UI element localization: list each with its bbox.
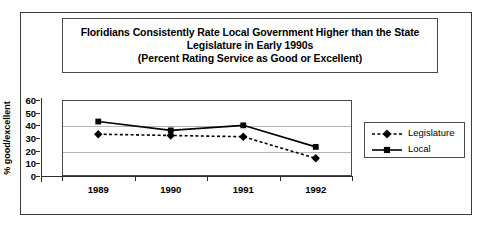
title-line-1: Floridians Consistently Rate Local Gover… bbox=[81, 26, 420, 39]
y-axis-label-text: % good/excellent bbox=[2, 101, 12, 175]
x-tick-mark bbox=[207, 176, 208, 181]
x-tick-mark bbox=[135, 176, 136, 181]
x-tick-label: 1991 bbox=[233, 184, 254, 195]
y-axis-line bbox=[41, 98, 42, 182]
y-tick-label: 40 bbox=[25, 120, 36, 131]
data-point-legislature bbox=[312, 154, 320, 162]
x-tick-label: 1992 bbox=[305, 184, 326, 195]
y-tick-label: 60 bbox=[25, 95, 36, 106]
data-point-legislature bbox=[239, 133, 247, 141]
y-tick-label: 50 bbox=[25, 107, 36, 118]
y-tick-mark bbox=[36, 163, 40, 164]
title-line-2: Legislature in Early 1990s bbox=[81, 39, 420, 52]
chart-legend: LegislatureLocal bbox=[364, 122, 465, 158]
series-layer bbox=[62, 100, 352, 176]
y-tick-mark bbox=[36, 125, 40, 126]
square-marker-icon bbox=[370, 142, 404, 154]
title-line-3: (Percent Rating Service as Good or Excel… bbox=[81, 52, 420, 65]
y-tick-mark bbox=[36, 100, 40, 101]
y-tick-mark bbox=[36, 176, 40, 177]
legend-label: Legislature bbox=[408, 127, 454, 138]
x-tick-label: 1989 bbox=[88, 184, 109, 195]
y-tick-mark bbox=[36, 151, 40, 152]
legend-item-local: Local bbox=[370, 141, 464, 155]
legend-label: Local bbox=[408, 143, 431, 154]
x-tick-label: 1990 bbox=[160, 184, 181, 195]
chart-figure: Floridians Consistently Rate Local Gover… bbox=[0, 0, 493, 226]
diamond-marker-icon bbox=[370, 126, 404, 138]
chart-title-box: Floridians Consistently Rate Local Gover… bbox=[62, 18, 438, 73]
x-axis-line bbox=[41, 176, 352, 177]
data-point-local bbox=[240, 122, 246, 128]
y-tick-mark bbox=[36, 138, 40, 139]
data-point-local bbox=[95, 119, 101, 125]
x-tick-mark bbox=[62, 176, 63, 181]
y-tick-label: 20 bbox=[25, 145, 36, 156]
data-point-local bbox=[313, 144, 319, 150]
y-tick-mark bbox=[36, 113, 40, 114]
data-point-legislature bbox=[94, 130, 102, 138]
y-tick-label: 10 bbox=[25, 158, 36, 169]
y-axis-ticks: 6050403020100 bbox=[14, 94, 40, 180]
x-tick-mark bbox=[352, 176, 353, 181]
y-axis-label: % good/excellent bbox=[0, 88, 14, 188]
chart-title: Floridians Consistently Rate Local Gover… bbox=[75, 26, 426, 65]
x-tick-mark bbox=[280, 176, 281, 181]
legend-item-legislature: Legislature bbox=[370, 125, 464, 139]
y-tick-label: 30 bbox=[25, 133, 36, 144]
data-point-local bbox=[168, 128, 174, 134]
